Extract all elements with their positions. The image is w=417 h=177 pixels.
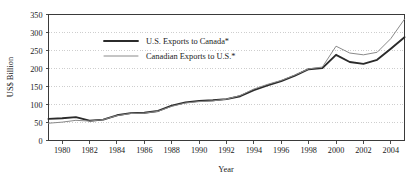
legend-label-1: Canadian Exports to U.S.*	[146, 52, 236, 61]
x-tick-label: 1994	[246, 146, 262, 155]
x-tick-label: 2004	[383, 146, 399, 155]
line-chart: 050100150200250300350 198019821984198619…	[0, 0, 417, 177]
y-tick-label: 0	[38, 137, 42, 146]
y-tick-label: 300	[30, 29, 42, 38]
x-axis-title: Year	[218, 165, 234, 174]
series-line-us-exports-to-canada	[49, 37, 405, 121]
y-tick-label: 350	[30, 11, 42, 20]
y-tick-label: 150	[30, 83, 42, 92]
x-tick-label: 1984	[109, 146, 125, 155]
legend-label-0: U.S. Exports to Canada*	[146, 37, 229, 46]
x-tick-label: 1986	[136, 146, 152, 155]
y-axis-title: US$ Billion	[6, 56, 15, 97]
x-tick-label: 1990	[191, 146, 207, 155]
x-tick-label: 2002	[355, 146, 371, 155]
x-tick-label: 1998	[300, 146, 316, 155]
x-tick-label: 1982	[81, 146, 97, 155]
series-line-canadian-exports-to-us	[49, 19, 405, 123]
chart-figure: 050100150200250300350 198019821984198619…	[0, 0, 417, 177]
x-tick-label: 1988	[164, 146, 180, 155]
x-tick-label: 1980	[54, 146, 70, 155]
x-tick-label: 1996	[273, 146, 289, 155]
y-tick-label: 50	[34, 119, 42, 128]
y-axis-tick-labels: 050100150200250300350	[30, 11, 42, 146]
y-tick-label: 100	[30, 101, 42, 110]
data-series-group	[49, 19, 405, 123]
y-tick-label: 250	[30, 47, 42, 56]
x-axis-tick-labels: 1980198219841986198819901992199419961998…	[54, 146, 399, 155]
plot-frame	[49, 15, 405, 141]
x-tick-label: 1992	[218, 146, 234, 155]
gridlines	[49, 15, 405, 123]
x-tick-label: 2000	[328, 146, 344, 155]
y-tick-label: 200	[30, 65, 42, 74]
chart-legend: U.S. Exports to Canada*Canadian Exports …	[104, 37, 236, 61]
